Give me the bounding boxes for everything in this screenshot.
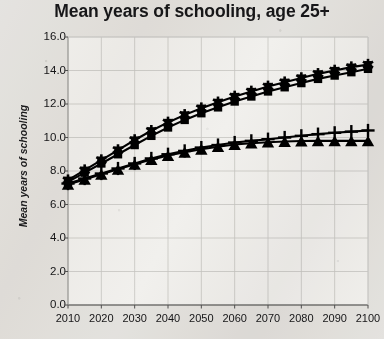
data-marker-square xyxy=(280,83,288,91)
data-marker-square xyxy=(297,79,305,87)
data-marker-square xyxy=(247,92,255,100)
data-marker-square xyxy=(264,87,272,95)
data-marker-square xyxy=(164,123,172,131)
data-marker-square xyxy=(114,150,122,158)
data-marker-square xyxy=(180,116,188,124)
plot-area xyxy=(0,0,384,339)
data-marker-square xyxy=(364,65,372,73)
chart-figure: Mean years of schooling, age 25+ Mean ye… xyxy=(0,0,384,339)
data-marker-square xyxy=(147,132,155,140)
data-marker-square xyxy=(347,68,355,76)
data-marker-square xyxy=(330,71,338,79)
data-marker-square xyxy=(197,109,205,117)
data-marker-square xyxy=(230,97,238,105)
data-marker-square xyxy=(130,141,138,149)
data-marker-square xyxy=(97,159,105,167)
data-marker-square xyxy=(214,103,222,111)
data-marker-square xyxy=(314,75,322,83)
